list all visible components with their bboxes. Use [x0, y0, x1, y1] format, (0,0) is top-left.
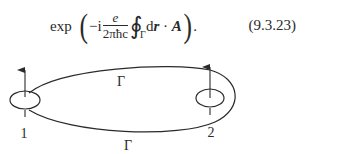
point-label-2: 2 — [208, 125, 215, 140]
gamma-label-bottom: Γ — [124, 138, 132, 153]
fraction-denominator: 2πħc — [103, 26, 128, 41]
right-paren: ) — [183, 9, 191, 43]
exp-function: exp — [50, 18, 72, 35]
left-paren: ( — [79, 9, 87, 43]
fraction-numerator: e — [112, 11, 118, 25]
minus-i: −i — [89, 18, 102, 35]
equation-body: exp ( −i e 2πħc ∮ Γ d r · A ) . — [50, 6, 197, 46]
period: . — [193, 18, 197, 35]
fraction: e 2πħc — [103, 11, 128, 41]
equation-9-3-23: exp ( −i e 2πħc ∮ Γ d r · A ) . (9.3.23) — [0, 6, 344, 46]
vector-a: A — [172, 18, 182, 35]
integral-subscript: Γ — [140, 23, 146, 47]
denominator-text: 2πħc — [103, 26, 128, 41]
loop-gamma — [29, 67, 235, 132]
gamma-label-top: Γ — [117, 74, 125, 89]
loop-diagram: Γ Γ 1 2 — [0, 55, 344, 154]
point-label-1: 1 — [21, 126, 28, 141]
contour-integral: ∮ Γ — [130, 14, 143, 38]
equation-number: (9.3.23) — [249, 17, 297, 34]
differential-d: d — [146, 18, 154, 35]
dot-product: · — [159, 18, 172, 35]
